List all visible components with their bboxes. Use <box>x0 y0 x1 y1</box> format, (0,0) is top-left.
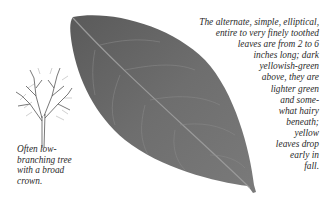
leaf-caption-line: and some- <box>119 95 319 106</box>
tree-silhouette-icon <box>12 66 74 148</box>
tree-caption-line: crown. <box>17 176 107 187</box>
leaf-caption-line: what hairy <box>119 106 319 117</box>
tree-caption-line: with a broad <box>17 165 107 176</box>
tree-caption-line: branching tree <box>17 155 107 166</box>
leaf-caption-line: inches long; dark <box>119 50 319 61</box>
leaf-caption-line: above, they are <box>119 72 319 83</box>
leaf-caption-line: The alternate, simple, elliptical, <box>119 17 319 28</box>
leaf-caption-line: entire to very finely toothed <box>119 28 319 39</box>
leaf-caption-line: yellow <box>119 128 319 139</box>
leaf-caption-line: fall. <box>119 161 319 172</box>
leaf-caption-line: beneath; <box>119 117 319 128</box>
leaf-caption-line: leaves drop <box>119 139 319 150</box>
leaf-caption-line: yellowish-green <box>119 61 319 72</box>
leaf-caption-line: lighter green <box>119 84 319 95</box>
tree-caption-line: Often low- <box>17 144 107 155</box>
leaf-caption: The alternate, simple, elliptical, entir… <box>119 17 319 172</box>
tree-caption: Often low- branching tree with a broad c… <box>17 144 107 186</box>
leaf-caption-line: early in <box>119 150 319 161</box>
leaf-caption-line: leaves are from 2 to 6 <box>119 39 319 50</box>
